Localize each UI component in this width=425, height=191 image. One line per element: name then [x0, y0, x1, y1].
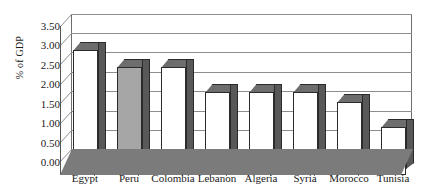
- x-tick-label-tunisia: Tunisia: [363, 172, 423, 185]
- y-tick-label: 1.50: [41, 99, 60, 110]
- y-tick-label: 3.50: [41, 21, 60, 32]
- y-tick-label: 1.00: [41, 118, 60, 129]
- y-tick-label: 2.50: [41, 60, 60, 71]
- y-axis-tick-labels: 3.50 3.00 2.50 2.00 1.50 1.00 0.50 0.00: [14, 0, 60, 191]
- plot-area: [60, 14, 413, 174]
- x-axis-tick-labels: Egypt Peru Colombia Lebanon Algeria Syri…: [60, 172, 413, 191]
- y-tick-label: 3.00: [41, 40, 60, 51]
- y-tick-label: 0.50: [41, 138, 60, 149]
- chart-figure: % of GDP 3.50 3.00 2.50 2.00 1.50 1.00 0…: [0, 0, 425, 191]
- y-tick-label: 2.00: [41, 79, 60, 90]
- y-tick-label: 0.00: [41, 157, 60, 168]
